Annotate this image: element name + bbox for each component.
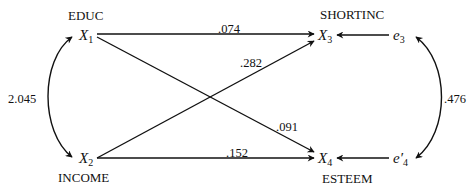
path-x2-x3 [97,41,314,158]
coef-x1-x4: .091 [276,121,298,134]
corr-x1-x2: 2.045 [8,93,36,106]
node-x4-symbol: X4 [318,150,332,171]
error-e4-symbol: e′4 [393,150,408,171]
node-x1-name: EDUC [68,9,103,23]
coef-x1-x3: .074 [218,23,240,36]
corr-e3-e4: .476 [444,93,466,106]
error-e3-symbol: e3 [393,27,405,48]
coef-x2-x3: .282 [240,57,262,70]
node-x1-symbol: X1 [79,27,93,48]
path-x1-x4 [97,37,314,152]
coef-x2-x4: .152 [226,147,248,160]
node-x3-name: SHORTINC [320,8,384,22]
node-x2-symbol: X2 [79,150,93,171]
correlation-e3-e4 [416,37,442,158]
node-x4-name: ESTEEM [322,172,373,186]
correlation-x1-x2 [48,37,72,157]
node-x2-name: INCOME [58,171,109,185]
node-x3-symbol: X3 [318,27,332,48]
